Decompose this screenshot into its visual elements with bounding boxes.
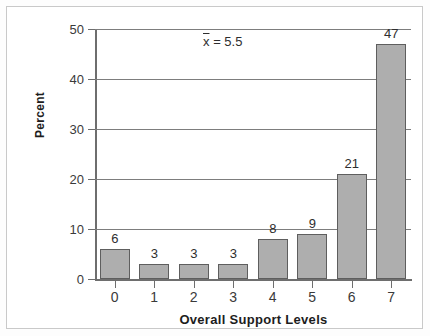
- x-tick-mark: [154, 281, 155, 288]
- x-tick-mark: [194, 281, 195, 288]
- y-axis-title: Percent: [33, 92, 47, 138]
- bar: [258, 239, 288, 279]
- x-tick-label: 7: [376, 290, 406, 304]
- x-tick-mark: [115, 281, 116, 288]
- bar: [337, 174, 367, 279]
- y-tick-mark: [88, 279, 95, 280]
- gridline: [95, 29, 411, 30]
- bar: [218, 264, 248, 279]
- gridline: [95, 129, 411, 130]
- bar: [179, 264, 209, 279]
- x-axis-title: Overall Support Levels: [95, 312, 412, 327]
- chart-page: Percent Overall Support Levels x = 5.5 0…: [0, 0, 430, 336]
- bar-value-label: 21: [335, 157, 369, 170]
- y-tick-label: 20: [58, 173, 84, 186]
- y-tick-mark: [88, 79, 95, 80]
- x-axis-line: [95, 279, 412, 281]
- y-tick-mark: [88, 129, 95, 130]
- y-tick-label: 10: [58, 223, 84, 236]
- bar-value-label: 6: [98, 232, 132, 245]
- x-tick-mark: [391, 281, 392, 288]
- x-tick-label: 0: [100, 290, 130, 304]
- x-tick-label: 2: [179, 290, 209, 304]
- x-tick-label: 4: [258, 290, 288, 304]
- bar: [139, 264, 169, 279]
- chart-frame: Percent Overall Support Levels x = 5.5 0…: [6, 6, 423, 329]
- gridline: [95, 79, 411, 80]
- y-tick-mark: [88, 29, 95, 30]
- y-tick-mark: [88, 229, 95, 230]
- y-tick-mark: [88, 179, 95, 180]
- x-tick-mark: [273, 281, 274, 288]
- x-tick-label: 1: [139, 290, 169, 304]
- bar: [100, 249, 130, 279]
- x-tick-label: 3: [218, 290, 248, 304]
- bar: [297, 234, 327, 279]
- bar-value-label: 3: [216, 247, 250, 260]
- plot-area: 01020304050 6333892147: [95, 29, 411, 279]
- bar-value-label: 3: [137, 247, 171, 260]
- x-tick-label: 6: [337, 290, 367, 304]
- bar-value-label: 47: [374, 27, 408, 40]
- x-tick-mark: [352, 281, 353, 288]
- y-tick-label: 30: [58, 123, 84, 136]
- x-tick-mark: [312, 281, 313, 288]
- y-tick-label: 50: [58, 23, 84, 36]
- y-tick-label: 40: [58, 73, 84, 86]
- x-tick-mark: [233, 281, 234, 288]
- bar: [376, 44, 406, 279]
- y-tick-label: 0: [58, 273, 84, 286]
- bar-value-label: 9: [295, 217, 329, 230]
- x-tick-label: 5: [297, 290, 327, 304]
- bar-value-label: 3: [177, 247, 211, 260]
- bar-value-label: 8: [256, 222, 290, 235]
